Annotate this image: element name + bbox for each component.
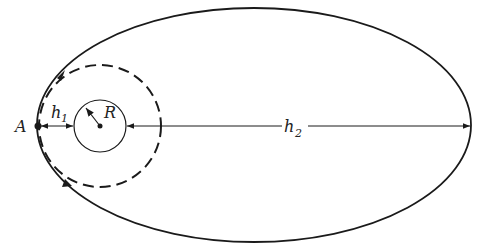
- label-h2-subscript: 2: [294, 127, 302, 140]
- label-point-a: A: [13, 117, 27, 136]
- orbit-diagram: A R h 1 h 2: [0, 0, 482, 245]
- label-radius: R: [103, 103, 116, 122]
- label-h1-subscript: 1: [61, 112, 68, 125]
- label-h1: h: [51, 103, 61, 122]
- point-a-dot: [35, 123, 42, 130]
- diagram-canvas: A R h 1 h 2: [0, 0, 482, 245]
- radius-arrow: [86, 108, 100, 126]
- label-h2: h: [284, 117, 294, 136]
